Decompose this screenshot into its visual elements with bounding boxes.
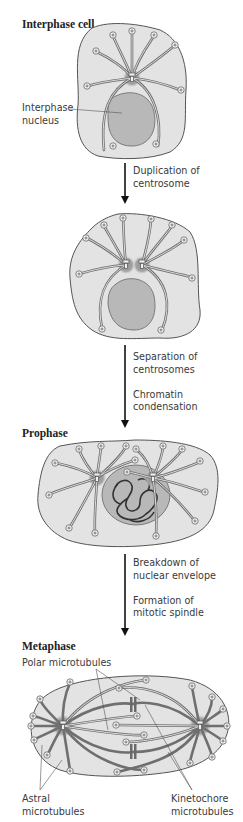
- transition-arrow-3: [121, 554, 129, 636]
- metaphase-cell: [28, 669, 230, 790]
- transition-arrow-2: [121, 345, 129, 428]
- duplicated-centrosome-cell: [70, 214, 200, 339]
- prophase-cell: [38, 440, 218, 547]
- interphase-nucleus: [108, 93, 155, 146]
- mitosis-diagram: [0, 0, 243, 822]
- transition-arrow-1: [121, 163, 129, 204]
- interphase-cell: [70, 24, 186, 159]
